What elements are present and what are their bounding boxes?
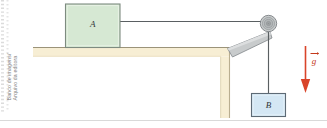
physics-diagram-figure: A B g Banco de imagens/ Arquivo da edito…: [0, 0, 327, 128]
pulley-axle: [268, 23, 270, 25]
block-a: A: [66, 4, 121, 48]
block-b: B: [252, 94, 286, 117]
table: [33, 48, 230, 119]
pulley-bracket: [228, 32, 273, 58]
gravity-arrow-head: [301, 79, 310, 93]
left-edge-strip: [3, 0, 8, 112]
pulley-wheel: [260, 15, 276, 31]
gravity-label: g: [312, 56, 317, 66]
block-a-label: A: [89, 19, 96, 29]
block-b-label: B: [266, 100, 272, 110]
diagram-canvas: A B g: [0, 0, 327, 128]
gravity-vector: g: [301, 46, 319, 93]
rope: [120, 22, 269, 95]
